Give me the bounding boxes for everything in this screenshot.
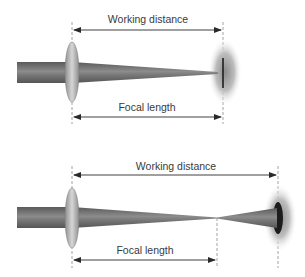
lens (65, 42, 79, 102)
converging-beam (72, 62, 218, 83)
optics-diagram: Working distance Focal length Working di… (0, 0, 305, 277)
input-beam (17, 207, 72, 228)
bottom-working-distance-label: Working distance (136, 161, 216, 172)
converging-beam (72, 207, 217, 228)
top-working-distance-label: Working distance (108, 14, 188, 25)
input-beam (17, 62, 72, 83)
diverging-beam (217, 208, 277, 228)
top-focal-length-label: Focal length (118, 102, 175, 113)
lens (65, 188, 79, 248)
bottom-focal-length-label: Focal length (116, 245, 173, 256)
